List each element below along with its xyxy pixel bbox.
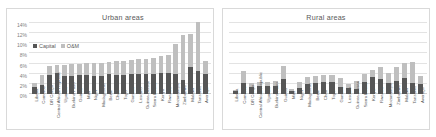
x-axis-tick-label: Average [205,87,209,103]
bar-column[interactable] [157,23,164,94]
bar-segment-om [99,63,104,76]
x-axis-tick: Mali [288,94,296,137]
x-axis-tick: Chad [113,94,120,137]
bar-column[interactable] [31,23,38,94]
x-axis-tick: Guinea-Bissau [142,94,149,137]
bar-segment-om [241,71,246,83]
bar-segment-om [394,67,399,81]
bar-segment-om [166,55,171,72]
legend-label-capital: Capital [39,43,56,49]
bar-segment-om [136,59,141,74]
x-axis-tick: Guinea-Bissau [352,94,360,137]
legend-swatch-capital [33,44,37,48]
x-axis-labels-rural: LiberiaComorosDR CongoCentral African Re… [229,94,427,137]
x-axis-tick: Average [202,94,209,137]
x-axis-tick: DR Congo [247,94,255,137]
bar-column[interactable] [328,23,336,94]
bar-column[interactable] [105,23,112,94]
legend-item-capital: Capital [33,43,56,49]
legend-swatch-om [61,44,65,48]
bar-segment-om [151,58,156,74]
x-axis-tick: Rwanda [376,94,384,137]
bar-segment-om [69,64,74,76]
x-axis-tick: Comoros [38,94,45,137]
x-axis-tick: Mali [83,94,90,137]
bar-column[interactable] [231,23,239,94]
bar-column[interactable] [393,23,401,94]
x-axis-tick: Kenya [157,94,164,137]
x-axis-tick: Togo [328,94,336,137]
bar-segment-om [402,63,407,78]
bar-column[interactable] [179,23,186,94]
x-axis-tick: Niger [296,94,304,137]
legend-label-om: O&M [67,43,79,49]
x-axis-tick: Average [417,94,425,137]
bar-column[interactable] [38,23,45,94]
x-axis-labels-urban: LiberiaComorosDR CongoCentral African Re… [29,94,211,137]
bar-segment-om [62,65,67,76]
bar-column[interactable] [76,23,83,94]
x-axis-tick-label: Average [421,87,425,103]
bar-column[interactable] [127,23,134,94]
chart-title-rural: Rural areas [223,13,429,22]
bar-segment-om [40,75,45,85]
bar-column[interactable] [135,23,142,94]
bar-column[interactable] [368,23,376,94]
stacked-bar[interactable] [188,34,193,94]
x-axis-tick: Central African Republic [255,94,263,137]
y-axis-labels-urban: 0%2%4%6%8%10%12%14% [8,23,28,94]
bar-column[interactable] [120,23,127,94]
x-axis-tick: Central African Republic [53,94,60,137]
chart-panel-urban: Urban areas 0%2%4%6%8%10%12%14% Capital … [6,8,214,130]
x-axis-tick: Malawi [187,94,194,137]
bar-column[interactable] [336,23,344,94]
bar-column[interactable] [46,23,53,94]
bar-segment-om [114,61,119,75]
bar-column[interactable] [401,23,409,94]
x-axis-tick: Burkina Faso [68,94,75,137]
bar-column[interactable] [296,23,304,94]
x-axis-tick: Rwanda [165,94,172,137]
bar-column[interactable] [202,23,209,94]
bar-segment-om [107,62,112,75]
bar-column[interactable] [376,23,384,94]
bar-column[interactable] [279,23,287,94]
chart-sheet: Urban areas 0%2%4%6%8%10%12%14% Capital … [0,0,436,137]
x-axis-tick: Malawi [401,94,409,137]
bar-column[interactable] [239,23,247,94]
bar-column[interactable] [61,23,68,94]
bar-column[interactable] [247,23,255,94]
bar-segment-om [92,63,97,76]
bar-column[interactable] [288,23,296,94]
stacked-bar[interactable] [121,61,126,94]
x-axis-tick: Liberia [231,94,239,137]
x-axis-tick: DR Congo [46,94,53,137]
bar-segment-om [77,64,82,76]
bar-segment-om [188,34,193,67]
x-axis-tick: Lesotho [135,94,142,137]
bar-segment-om [84,63,89,75]
bar-column[interactable] [312,23,320,94]
bar-segment-om [181,35,186,80]
bar-column[interactable] [344,23,352,94]
bar-segment-om [159,56,164,73]
bar-column[interactable] [83,23,90,94]
stacked-bar[interactable] [84,63,89,94]
bar-column[interactable] [194,23,201,94]
bar-column[interactable] [409,23,417,94]
bar-column[interactable] [263,23,271,94]
x-axis-tick: Madagascar [304,94,312,137]
bar-column[interactable] [165,23,172,94]
bar-column[interactable] [187,23,194,94]
bar-column[interactable] [90,23,97,94]
x-axis-tick: Benin [105,94,112,137]
x-axis-tick: Burkina Faso [271,94,279,137]
bar-column[interactable] [320,23,328,94]
bar-column[interactable] [417,23,425,94]
x-axis-tick: Togo [120,94,127,137]
bar-segment-om [47,66,52,75]
stacked-bar[interactable] [196,22,201,94]
x-axis-tick: Comoros [239,94,247,137]
bar-column[interactable] [113,23,120,94]
x-axis-tick: Uganda [61,94,68,137]
